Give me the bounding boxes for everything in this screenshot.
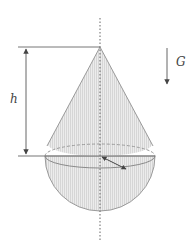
cone [47,47,153,156]
height-label: h [10,93,18,105]
cone-hemisphere-diagram: h G [0,0,195,248]
gravity-label: G [176,56,186,68]
